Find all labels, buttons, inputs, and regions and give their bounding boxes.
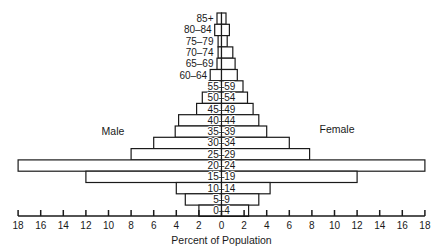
- x-tick-label: 10: [329, 220, 341, 231]
- female-bar: [222, 160, 425, 171]
- x-tick-label: 8: [128, 220, 134, 231]
- x-axis-title: Percent of Population: [171, 234, 272, 246]
- x-tick-label: 12: [80, 220, 92, 231]
- age-group-label: 75–79: [186, 36, 214, 47]
- female-bar: [222, 171, 358, 182]
- x-tick-label: 2: [196, 220, 202, 231]
- female-bar: [222, 70, 238, 81]
- male-bar: [86, 171, 222, 182]
- x-tick-label: 6: [287, 220, 293, 231]
- age-group-label: 80–84: [184, 24, 212, 35]
- age-group-label: 85+: [197, 13, 214, 24]
- female-bar: [222, 47, 233, 58]
- x-tick-label: 18: [13, 220, 25, 231]
- x-tick-label: 18: [419, 220, 431, 231]
- male-bar: [215, 24, 222, 35]
- x-tick-label: 4: [174, 220, 180, 231]
- x-tick-label: 0: [219, 220, 225, 231]
- age-group-label: 60–64: [179, 70, 207, 81]
- female-bar: [222, 36, 228, 47]
- female-bar: [222, 24, 230, 35]
- x-tick-label: 10: [103, 220, 115, 231]
- female-bar: [222, 58, 236, 69]
- x-tick-label: 6: [151, 220, 157, 231]
- male-bar: [217, 13, 222, 24]
- age-group-label: 70–74: [186, 47, 214, 58]
- x-tick-label: 16: [35, 220, 47, 231]
- male-bar: [210, 70, 221, 81]
- x-tick-label: 8: [309, 220, 315, 231]
- x-tick-label: 16: [397, 220, 409, 231]
- population-pyramid-chart: 85+80–8475–7970–7465–6960–6455–5950–5445…: [0, 0, 438, 250]
- x-axis-ticks: 18161412108642024681012141618: [13, 210, 431, 231]
- x-tick-label: 2: [241, 220, 247, 231]
- x-tick-label: 4: [264, 220, 270, 231]
- x-tick-label: 14: [58, 220, 70, 231]
- female-side-label: Female: [319, 123, 354, 135]
- female-bar: [222, 13, 227, 24]
- male-bar: [217, 58, 222, 69]
- age-group-label: 65–69: [186, 58, 214, 69]
- male-side-label: Male: [102, 125, 125, 137]
- male-bar: [18, 160, 221, 171]
- x-tick-label: 12: [352, 220, 364, 231]
- x-tick-label: 14: [374, 220, 386, 231]
